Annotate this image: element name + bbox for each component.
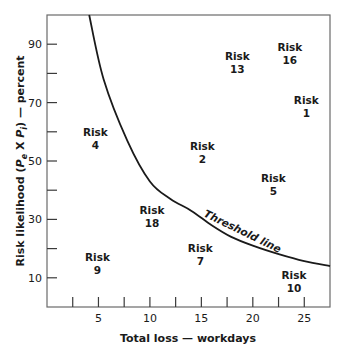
risk-number: 16: [283, 54, 298, 66]
x-tick-label: 10: [143, 312, 157, 325]
threshold-line-label: Threshold line: [202, 207, 283, 255]
y-tick-label: 30: [28, 213, 42, 226]
y-axis-title: Risk likelihood (Pe X Pi) — percent: [14, 55, 29, 266]
risk-number: 18: [145, 217, 160, 229]
x-tick-label: 25: [297, 312, 311, 325]
risk-label: Risk: [83, 126, 109, 138]
risk-point-13: Risk13: [225, 50, 251, 75]
risk-number: 1: [303, 107, 310, 119]
risk-label: Risk: [85, 251, 111, 263]
risk-number: 7: [197, 255, 204, 267]
x-tick-label: 5: [95, 312, 102, 325]
x-tick-label: 20: [246, 312, 260, 325]
risk-number: 9: [94, 264, 101, 276]
risk-point-1: Risk1: [294, 94, 320, 119]
risk-number: 10: [287, 282, 302, 294]
risk-point-9: Risk9: [85, 251, 111, 276]
risk-point-10: Risk10: [282, 269, 308, 294]
risk-point-18: Risk18: [140, 204, 166, 229]
risk-point-7: Risk7: [188, 242, 214, 267]
risk-label: Risk: [225, 50, 251, 62]
risk-number: 13: [230, 63, 245, 75]
risk-number: 4: [92, 139, 99, 151]
risk-label: Risk: [282, 269, 308, 281]
risk-number: 2: [199, 153, 206, 165]
y-tick-label: 50: [28, 155, 42, 168]
y-tick-label: 10: [28, 272, 42, 285]
y-axis-ticks: 1030507090: [28, 38, 57, 285]
x-tick-label: 15: [194, 312, 208, 325]
risk-label: Risk: [294, 94, 320, 106]
risk-point-16: Risk16: [277, 41, 303, 66]
risk-point-2: Risk2: [190, 140, 216, 165]
risk-label: Risk: [140, 204, 166, 216]
x-axis-title: Total loss — workdays: [120, 332, 257, 345]
risk-point-5: Risk5: [261, 172, 287, 197]
x-axis-ticks: 510152025: [73, 297, 312, 325]
risk-label: Risk: [277, 41, 303, 53]
risk-label: Risk: [190, 140, 216, 152]
y-tick-label: 70: [28, 97, 42, 110]
risk-label: Risk: [261, 172, 287, 184]
risk-chart: 510152025 1030507090 Threshold line Risk…: [0, 0, 339, 349]
risk-label: Risk: [188, 242, 214, 254]
risk-point-4: Risk4: [83, 126, 109, 151]
y-tick-label: 90: [28, 38, 42, 51]
risk-number: 5: [270, 185, 277, 197]
